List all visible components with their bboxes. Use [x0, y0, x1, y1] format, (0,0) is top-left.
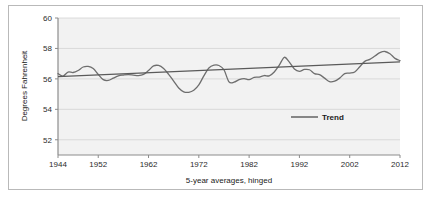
- x-axis-tick-labels: 19441952196219721982199220022012: [49, 160, 409, 169]
- x-tick-label: 2002: [341, 160, 359, 169]
- y-tick-label: 60: [43, 14, 52, 23]
- plot-area-background: [58, 18, 400, 155]
- legend-label-trend: Trend: [322, 113, 344, 122]
- y-axis-title: Degrees Fahrenheit: [20, 50, 29, 121]
- y-tick-label: 56: [43, 75, 52, 84]
- x-tick-label: 1944: [49, 160, 67, 169]
- x-axis-title: 5-year averages, hinged: [186, 176, 272, 185]
- temperature-line-chart: 19441952196219721982199220022012 5254565…: [0, 0, 431, 206]
- y-axis-tick-labels: 5254565860: [43, 14, 52, 145]
- y-tick-label: 52: [43, 136, 52, 145]
- y-tick-label: 58: [43, 44, 52, 53]
- x-tick-label: 2012: [391, 160, 409, 169]
- y-tick-label: 54: [43, 105, 52, 114]
- x-tick-label: 1952: [89, 160, 107, 169]
- x-tick-label: 1992: [291, 160, 309, 169]
- chart-figure: 19441952196219721982199220022012 5254565…: [0, 0, 431, 206]
- x-tick-label: 1972: [190, 160, 208, 169]
- x-tick-label: 1982: [240, 160, 258, 169]
- x-tick-label: 1962: [140, 160, 158, 169]
